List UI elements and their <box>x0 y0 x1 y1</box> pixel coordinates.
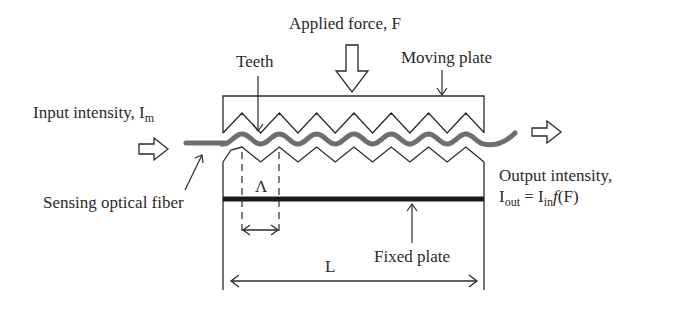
input-arrow-icon <box>139 138 168 160</box>
lower-teeth <box>223 147 484 162</box>
output-equation: Iout = Iinf(F) <box>499 187 579 207</box>
input-intensity-subscript: m <box>145 111 154 125</box>
output-sub-out: out <box>505 195 520 209</box>
sensing-optical-fiber <box>186 133 515 145</box>
output-intensity-text: Output intensity, <box>499 166 612 185</box>
output-arg: (F) <box>558 187 579 206</box>
teeth-label: Teeth <box>236 52 274 72</box>
sensing-fiber-label: Sensing optical fiber <box>43 193 184 213</box>
input-intensity-text: Input intensity, I <box>33 103 145 122</box>
applied-force-label: Applied force, F <box>289 14 401 34</box>
sensing-fiber-pointer <box>185 155 202 190</box>
moving-plate <box>223 96 484 133</box>
output-arrow-icon <box>532 121 561 143</box>
sensor-diagram <box>0 0 674 309</box>
fixed-plate-label: Fixed plate <box>374 247 450 267</box>
input-intensity-label: Input intensity, Im <box>33 103 154 123</box>
upper-teeth <box>223 113 484 133</box>
moving-plate-label: Moving plate <box>401 48 492 68</box>
output-equals: = I <box>520 187 544 206</box>
output-intensity-label: Output intensity, <box>499 166 612 186</box>
period-label: Λ <box>255 177 267 197</box>
length-label: L <box>325 257 335 277</box>
applied-force-arrow-icon <box>336 45 368 92</box>
output-sub-in: in <box>544 195 553 209</box>
